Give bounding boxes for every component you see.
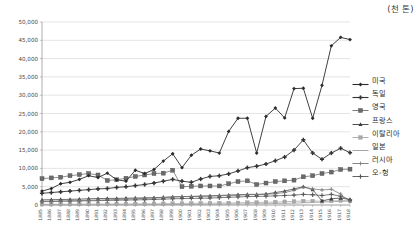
x-tick-label: 1917: [337, 209, 342, 221]
marker-square: [264, 181, 268, 185]
y-tick-label: 30,000: [18, 92, 38, 98]
x-tick-label: 1890: [85, 209, 90, 221]
legend-item-러시아[interactable]: 러시아: [352, 153, 420, 166]
marker-cross: [115, 185, 119, 189]
y-tick-label: 5,000: [22, 184, 38, 190]
x-tick-label: 1895: [131, 209, 136, 221]
marker-diamond: [77, 177, 81, 181]
marker-cross: [227, 172, 231, 176]
legend-item-독일[interactable]: 독일: [352, 87, 420, 100]
x-tick-label: 1906: [234, 209, 239, 221]
marker-cross: [199, 177, 203, 181]
y-tick-label: 0: [34, 202, 38, 208]
x-tick-label: 1907: [243, 209, 248, 221]
marker-square: [311, 199, 315, 203]
y-tick-label: 45,000: [18, 37, 38, 43]
x-tick-label: 1885: [38, 209, 43, 221]
x-tick-label: 1911: [281, 209, 286, 221]
marker-diamond: [301, 86, 305, 90]
x-tick-label: 1887: [57, 209, 62, 221]
marker-square: [49, 176, 53, 180]
marker-cross: [264, 162, 268, 166]
legend-item-이탈리아[interactable]: 이탈리아: [352, 127, 420, 140]
series-line: [42, 37, 350, 191]
marker-diamond: [348, 38, 352, 42]
marker-square: [152, 172, 156, 176]
x-tick-label: 1888: [66, 209, 71, 221]
marker-plus: [310, 193, 314, 197]
marker-square: [124, 202, 128, 206]
x-tick-label: 1916: [327, 209, 332, 221]
marker-cross: [189, 180, 193, 184]
marker-square: [283, 200, 287, 204]
marker-square: [255, 201, 259, 205]
marker-square: [255, 183, 259, 187]
marker-diamond: [311, 116, 315, 120]
legend-label: 미국: [372, 77, 386, 84]
legend-label: 일본: [372, 143, 386, 150]
legend-item-오-헝[interactable]: 오-헝: [352, 166, 420, 179]
marker-cross: [77, 188, 81, 192]
marker-square: [329, 170, 333, 174]
marker-square: [273, 180, 277, 184]
x-tick-label: 1894: [122, 209, 127, 221]
marker-cross: [171, 177, 175, 181]
marker-square: [292, 200, 296, 204]
x-tick-label: 1896: [141, 209, 146, 221]
marker-plus: [329, 192, 333, 196]
marker-square: [227, 201, 231, 205]
marker-cross: [180, 179, 184, 183]
marker-square: [245, 179, 249, 183]
marker-diamond: [245, 116, 249, 120]
marker-cross: [87, 188, 91, 192]
marker-square: [105, 178, 109, 182]
marker-cross: [68, 189, 72, 193]
x-tick-label: 1908: [253, 209, 258, 221]
marker-square: [77, 173, 81, 177]
legend-item-일본[interactable]: 일본: [352, 140, 420, 153]
marker-cross: [96, 187, 100, 191]
x-tick-label: 1914: [309, 209, 314, 221]
marker-cross: [273, 159, 277, 163]
x-tick-label: 1905: [225, 209, 230, 221]
series-영국: [40, 167, 352, 189]
x-tick-label: 1910: [271, 209, 276, 221]
marker-square: [320, 172, 324, 176]
marker-plus: [301, 185, 305, 189]
marker-square: [359, 109, 363, 113]
x-tick-label: 1915: [318, 209, 323, 221]
marker-square: [199, 201, 203, 205]
marker-square: [302, 199, 306, 203]
marker-diamond: [49, 187, 53, 191]
marker-square: [133, 174, 137, 178]
marker-square: [301, 175, 305, 179]
marker-plus: [359, 162, 363, 166]
x-tick-label: 1892: [103, 209, 108, 221]
marker-diamond: [320, 83, 324, 87]
marker-square: [171, 202, 175, 206]
marker-cross: [208, 174, 212, 178]
legend-marker-icon: [352, 167, 369, 178]
marker-plus: [329, 187, 333, 191]
x-tick-label: 1918: [346, 209, 351, 221]
legend-item-프랑스[interactable]: 프랑스: [352, 114, 420, 127]
marker-cross: [124, 185, 128, 189]
x-tick-label: 1900: [178, 209, 183, 221]
marker-square: [283, 179, 287, 183]
marker-cross: [255, 164, 259, 168]
legend-item-영국[interactable]: 영국: [352, 100, 420, 113]
marker-square: [217, 184, 221, 188]
legend-item-미국[interactable]: 미국: [352, 74, 420, 87]
legend-label: 프랑스: [372, 117, 393, 124]
y-tick-label: 50,000: [18, 19, 38, 25]
marker-square: [208, 184, 212, 188]
marker-square: [40, 177, 44, 181]
x-tick-label: 1893: [113, 209, 118, 221]
marker-cross: [161, 179, 165, 183]
marker-square: [106, 202, 110, 206]
marker-plus: [320, 193, 324, 197]
marker-cross: [49, 190, 53, 194]
x-tick-label: 1889: [75, 209, 80, 221]
marker-square: [161, 171, 165, 175]
marker-plus: [358, 175, 362, 179]
